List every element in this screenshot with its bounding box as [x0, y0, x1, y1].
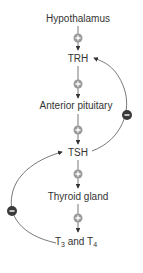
feedback-diagram	[0, 0, 143, 273]
node-t3-t4: T3 and T4	[55, 236, 97, 248]
minus-icon	[7, 206, 17, 216]
node-anterior-pituitary: Anterior pituitary	[40, 100, 113, 112]
node-hypothalamus: Hypothalamus	[46, 13, 110, 25]
plus-icon	[74, 170, 83, 179]
plus-icon	[74, 80, 83, 89]
node-thyroid-gland: Thyroid gland	[48, 191, 109, 203]
node-tsh: TSH	[68, 147, 88, 159]
node-trh: TRH	[68, 53, 89, 65]
minus-icon	[122, 110, 132, 120]
and-t-text: and T	[65, 236, 93, 247]
plus-icon	[74, 34, 83, 43]
plus-icon	[74, 214, 83, 223]
t4-subscript: 4	[93, 241, 97, 248]
plus-icon	[74, 126, 83, 135]
